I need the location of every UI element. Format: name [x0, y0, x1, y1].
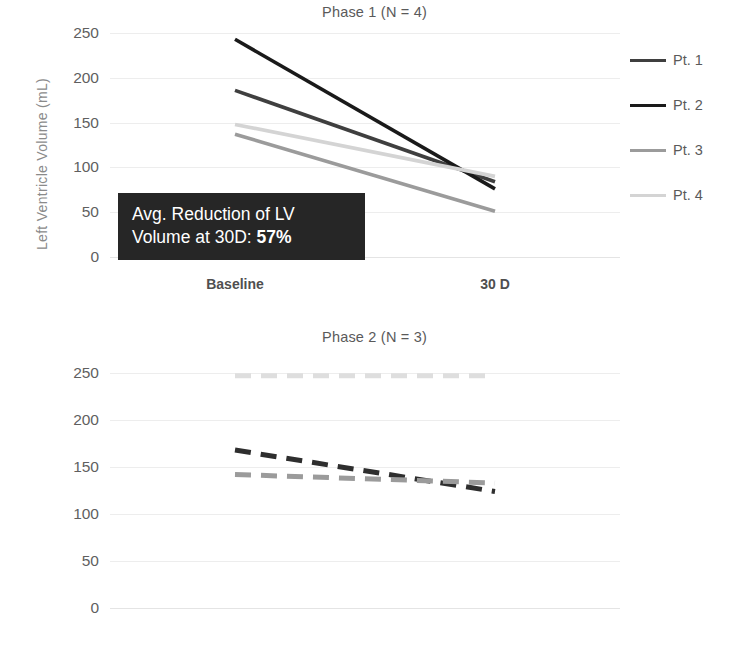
callout-line-1-phase-1: Avg. Reduction of LV — [132, 203, 351, 226]
callout-box-phase-1: Avg. Reduction of LV Volume at 30D: 57% — [118, 193, 365, 260]
x-tick-baseline-phase-1: Baseline — [206, 276, 264, 292]
x-tick-30d-phase-1: 30 D — [480, 276, 510, 292]
legend-item-pt-1[interactable]: Pt. 1 — [630, 52, 703, 68]
y-tick-150: 150 — [73, 458, 110, 476]
legend-swatch-icon — [630, 59, 666, 62]
series-layer-phase-2 — [110, 373, 620, 608]
y-tick-250: 250 — [73, 364, 110, 382]
callout-line-2-phase-1: Volume at 30D: 57% — [132, 226, 351, 249]
legend-item-pt-2[interactable]: Pt. 2 — [630, 97, 703, 113]
series-line-pt-6 — [235, 475, 495, 483]
y-tick-50: 50 — [82, 552, 110, 570]
y-axis-label-phase-1: Left Ventricle Volume (mL) — [34, 78, 50, 250]
legend-label: Pt. 3 — [673, 142, 703, 158]
y-tick-50: 50 — [82, 203, 110, 221]
chart-title-phase-2: Phase 2 (N = 3) — [0, 329, 749, 345]
series-line-pt-5 — [235, 450, 495, 491]
legend-item-pt-4[interactable]: Pt. 4 — [630, 187, 703, 203]
y-tick-200: 200 — [73, 69, 110, 87]
legend-item-pt-3[interactable]: Pt. 3 — [630, 142, 703, 158]
y-tick-150: 150 — [73, 114, 110, 132]
y-tick-200: 200 — [73, 411, 110, 429]
callout-prefix-phase-1: Volume at 30D: — [132, 227, 257, 247]
y-tick-0: 0 — [90, 248, 110, 266]
y-tick-250: 250 — [73, 24, 110, 42]
legend-label: Pt. 2 — [673, 97, 703, 113]
legend-swatch-icon — [630, 149, 666, 152]
legend-label: Pt. 1 — [673, 52, 703, 68]
y-tick-100: 100 — [73, 158, 110, 176]
gridline-0 — [110, 608, 620, 609]
series-line-pt-2 — [235, 39, 495, 189]
plot-area-phase-2: 250200150100500 — [110, 373, 620, 608]
chart-title-phase-1: Phase 1 (N = 4) — [0, 4, 749, 20]
y-tick-100: 100 — [73, 505, 110, 523]
chart-panel-phase-2: Phase 2 (N = 3) Left Ventricle Volume (m… — [0, 325, 749, 647]
legend-swatch-icon — [630, 104, 666, 107]
legend-label: Pt. 4 — [673, 187, 703, 203]
series-line-pt-4 — [235, 124, 495, 176]
y-tick-0: 0 — [90, 599, 110, 617]
callout-value-phase-1: 57% — [257, 227, 292, 247]
legend-swatch-icon — [630, 194, 666, 197]
chart-panel-phase-1: Phase 1 (N = 4) Left Ventricle Volume (m… — [0, 0, 749, 325]
